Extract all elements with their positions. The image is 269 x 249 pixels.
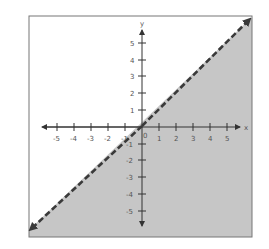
svg-text:4: 4 <box>208 135 213 143</box>
svg-text:-4: -4 <box>126 191 134 199</box>
svg-text:0: 0 <box>143 132 147 140</box>
svg-text:3: 3 <box>130 73 134 81</box>
svg-text:-3: -3 <box>87 135 94 143</box>
svg-text:-2: -2 <box>104 135 111 143</box>
svg-text:-5: -5 <box>126 208 133 216</box>
inequality-graph: x y -5 -4 -3 -2 -1 0 1 2 3 4 5 <box>0 0 269 249</box>
svg-text:-2: -2 <box>126 157 133 165</box>
y-axis-label: y <box>140 20 144 28</box>
svg-text:4: 4 <box>130 57 135 65</box>
svg-text:1: 1 <box>130 107 134 115</box>
svg-text:-1: -1 <box>126 141 133 149</box>
svg-text:1: 1 <box>157 135 161 143</box>
svg-text:5: 5 <box>225 135 229 143</box>
svg-text:2: 2 <box>174 135 178 143</box>
svg-text:-3: -3 <box>126 174 133 182</box>
svg-text:2: 2 <box>130 90 134 98</box>
svg-text:-5: -5 <box>53 135 60 143</box>
svg-text:5: 5 <box>130 40 134 48</box>
x-axis-label: x <box>244 124 248 132</box>
svg-text:3: 3 <box>191 135 195 143</box>
svg-text:-4: -4 <box>70 135 78 143</box>
